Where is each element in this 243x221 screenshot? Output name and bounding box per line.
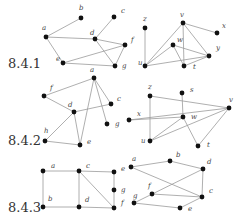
edge-u-v bbox=[145, 23, 183, 66]
edge-v-t bbox=[183, 23, 184, 66]
vertex-g bbox=[112, 188, 117, 193]
vertex-d bbox=[201, 167, 206, 172]
vertex-label-f: f bbox=[120, 199, 125, 207]
vertex-label-e: e bbox=[121, 165, 125, 173]
edge-d-c bbox=[95, 17, 114, 39]
vertex-a bbox=[92, 76, 97, 81]
vertex-label-w: w bbox=[177, 36, 183, 44]
vertex-label-v: v bbox=[229, 96, 233, 104]
edge-a-b bbox=[131, 161, 170, 167]
vertex-label-d: d bbox=[207, 158, 212, 166]
vertex-label-x: x bbox=[137, 110, 141, 118]
vertex-label-w: w bbox=[191, 113, 197, 121]
edge-a-e bbox=[80, 78, 94, 145]
vertex-label-b: b bbox=[79, 4, 84, 12]
edge-d-e bbox=[74, 112, 80, 145]
graph-exercise-figure: abcdefgzuvwxytafcdghezsvxwutacegbdfabdfc… bbox=[0, 0, 243, 221]
edge-e-f bbox=[63, 45, 125, 63]
vertex-label-g: g bbox=[133, 192, 138, 200]
vertex-label-g: g bbox=[121, 186, 126, 194]
vertex-label-d: d bbox=[90, 29, 95, 37]
vertex-label-c: c bbox=[117, 95, 121, 103]
vertex-e bbox=[78, 143, 83, 148]
edge-f-c bbox=[152, 194, 202, 197]
vertex-x bbox=[127, 118, 132, 123]
vertex-b bbox=[79, 16, 84, 21]
vertex-label-d: d bbox=[85, 196, 90, 204]
vertex-f bbox=[42, 94, 47, 99]
edge-v-x bbox=[183, 23, 217, 33]
vertex-label-u: u bbox=[141, 137, 146, 145]
vertex-c bbox=[109, 102, 114, 107]
vertex-z bbox=[143, 26, 148, 31]
edge-d-f bbox=[95, 39, 125, 45]
edge-a-c bbox=[131, 167, 202, 197]
edge-a-c bbox=[94, 78, 111, 104]
edge-g-e bbox=[134, 203, 180, 208]
vertex-d bbox=[77, 205, 82, 210]
vertex-label-b: b bbox=[176, 151, 181, 159]
vertex-label-x: x bbox=[222, 22, 226, 30]
vertex-s bbox=[180, 91, 185, 96]
vertex-e bbox=[178, 206, 183, 211]
vertex-h bbox=[43, 139, 48, 144]
edge-h-e bbox=[45, 141, 80, 145]
vertex-label-z: z bbox=[147, 83, 152, 91]
vertex-x bbox=[215, 31, 220, 36]
vertex-c bbox=[77, 169, 82, 174]
vertex-label-s: s bbox=[190, 86, 194, 94]
vertex-c bbox=[200, 195, 205, 200]
edge-a-e bbox=[46, 37, 63, 63]
vertex-w bbox=[171, 43, 176, 48]
edge-t-v bbox=[198, 108, 229, 146]
vertex-f bbox=[112, 206, 117, 211]
vertex-label-e: e bbox=[87, 138, 91, 146]
vertex-label-t: t bbox=[193, 63, 196, 71]
edge-a-d bbox=[46, 37, 95, 39]
edge-d-f bbox=[79, 207, 114, 208]
vertex-label-a: a bbox=[51, 162, 55, 170]
vertex-label-t: t bbox=[207, 141, 210, 149]
vertex-label-c: c bbox=[86, 162, 90, 170]
edge-u-y bbox=[145, 56, 209, 66]
vertex-label-c: c bbox=[209, 187, 213, 195]
edge-z-v bbox=[150, 96, 229, 108]
edge-v-y bbox=[183, 23, 209, 56]
section-label: 8.4.3 bbox=[8, 200, 41, 215]
edge-d-c bbox=[202, 169, 203, 197]
vertex-label-y: y bbox=[215, 44, 221, 52]
vertex-u bbox=[148, 139, 153, 144]
edge-c-e bbox=[79, 171, 114, 172]
section-label: 8.4.1 bbox=[8, 56, 41, 71]
edge-u-w bbox=[145, 45, 173, 66]
vertex-label-e: e bbox=[56, 55, 60, 63]
edge-a-b bbox=[46, 18, 81, 37]
vertex-b bbox=[41, 205, 46, 210]
vertex-label-a: a bbox=[42, 24, 46, 32]
vertex-a bbox=[41, 169, 46, 174]
edge-t-y bbox=[184, 56, 209, 66]
vertex-label-v: v bbox=[180, 11, 184, 19]
vertex-label-g: g bbox=[115, 120, 120, 128]
vertex-f bbox=[123, 43, 128, 48]
vertex-label-d: d bbox=[68, 101, 73, 109]
vertex-v bbox=[227, 106, 232, 111]
labels-layer: abcdefgzuvwxytafcdghezsvxwutacegbdfabdfc… bbox=[42, 4, 233, 213]
edge-d-g bbox=[134, 169, 203, 203]
section-label: 8.4.2 bbox=[8, 133, 41, 148]
edge-a-g bbox=[94, 78, 107, 124]
edge-b-d bbox=[170, 161, 203, 169]
edge-w-t bbox=[183, 117, 198, 146]
vertex-d bbox=[93, 37, 98, 42]
vertex-v bbox=[181, 21, 186, 26]
vertex-z bbox=[148, 94, 153, 99]
vertex-a bbox=[44, 35, 49, 40]
vertex-f bbox=[150, 192, 155, 197]
vertex-g bbox=[132, 201, 137, 206]
vertex-label-u: u bbox=[138, 59, 143, 67]
vertex-t bbox=[196, 144, 201, 149]
vertex-g bbox=[105, 122, 110, 127]
vertex-label-a: a bbox=[90, 66, 94, 74]
vertex-g bbox=[113, 64, 118, 69]
vertex-label-b: b bbox=[48, 195, 53, 203]
